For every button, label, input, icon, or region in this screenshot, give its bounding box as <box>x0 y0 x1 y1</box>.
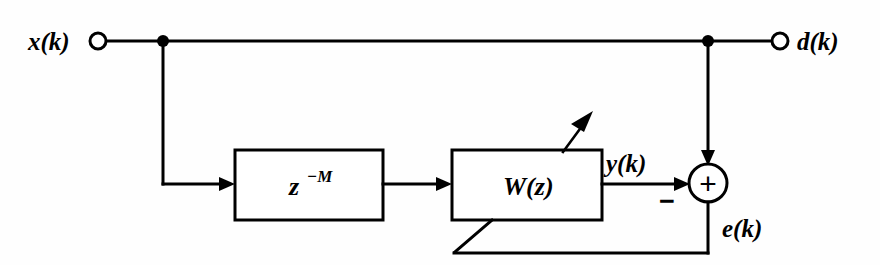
arrowhead-into-filter <box>436 177 452 191</box>
delay-block-label-base: z <box>288 172 300 201</box>
branch-to-delay <box>163 41 235 191</box>
adaptation-arrowhead <box>571 111 593 132</box>
wire-delay-to-filter-group <box>383 177 452 191</box>
block-diagram-canvas: z −M W(z) y(k) − + <box>0 0 880 265</box>
input-terminal-d <box>772 33 788 49</box>
adaptation-feedback-diagonal <box>455 220 492 252</box>
sum-negative-sign: − <box>659 186 675 216</box>
wire-d-to-sum-group <box>701 41 715 166</box>
signal-label-y: y(k) <box>603 150 646 178</box>
adaptation-arrow <box>563 111 593 152</box>
arrowhead-into-delay <box>219 177 235 191</box>
terminal-label-x: x(k) <box>27 28 70 56</box>
delay-block-label-exponent: −M <box>307 167 333 186</box>
signal-label-e: e(k) <box>722 215 762 243</box>
adaptive-filter-block-label: W(z) <box>503 172 554 201</box>
input-terminal-x <box>90 33 106 49</box>
adaptive-filter-diagram: z −M W(z) y(k) − + <box>0 0 880 265</box>
terminal-label-d: d(k) <box>797 28 839 56</box>
wire-filter-output-group <box>602 177 690 191</box>
summing-junction-operator: + <box>699 167 717 200</box>
